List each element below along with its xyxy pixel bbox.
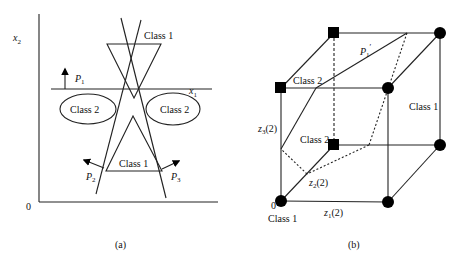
panel-b [281,33,440,202]
class2-vertex [328,27,339,38]
class1-vertex [275,195,287,207]
class2-mid-label: Class 2 [300,134,329,145]
origin-label-b: 0 [271,200,276,211]
cube-edge [281,201,388,202]
class1-right-label: Class 1 [409,101,438,112]
class1-bottom-label: Class 1 [119,158,148,169]
p3-label: P3 [170,171,181,184]
x1-label: x1 [188,85,197,99]
class1-top-label: Class 1 [144,30,173,41]
origin-label-a: 0 [26,201,31,212]
caption-b: (b) [348,239,360,251]
axis-x2-label: x2 [12,32,21,46]
class2-top-label: Class 2 [293,75,322,86]
axis-z1-label: z1(2) [323,207,343,220]
cube-edge [388,145,440,202]
p1-label: P1 [74,73,85,86]
plane-p1-prime-hidden [281,149,307,174]
p2-normal-arrow [84,160,104,168]
class1-vertex [434,27,446,39]
class1-vertex [434,139,446,151]
cube-edge [388,33,440,88]
plane-p1-prime [316,33,407,88]
panel-a-labels: x2 0 x1 Class 1 Class 2 Class 2 Class 1 … [12,30,197,251]
class1-vertex [382,82,394,94]
class2-vertex [275,82,286,93]
class1-origin-label: Class 1 [268,213,297,224]
figure: x2 0 x1 Class 1 Class 2 Class 2 Class 1 … [0,0,462,267]
panel-b-labels: 0 Class 1 Class 1 Class 2 Class 2 P1′ z3… [257,43,438,251]
caption-a: (a) [115,239,126,251]
panel-a [39,14,218,202]
axis-z3-label: z3(2) [257,123,277,136]
class2-left-label: Class 2 [70,104,99,115]
class1-vertex [382,196,394,208]
class2-right-label: Class 2 [160,104,189,115]
p3-normal-arrow [162,161,179,169]
plane-p1-prime-label: P1′ [359,43,372,59]
cube-edge [281,145,334,201]
p2-label: P2 [85,171,96,184]
axis-z2-label: z2(2) [308,177,328,190]
class2-vertex [328,139,339,150]
